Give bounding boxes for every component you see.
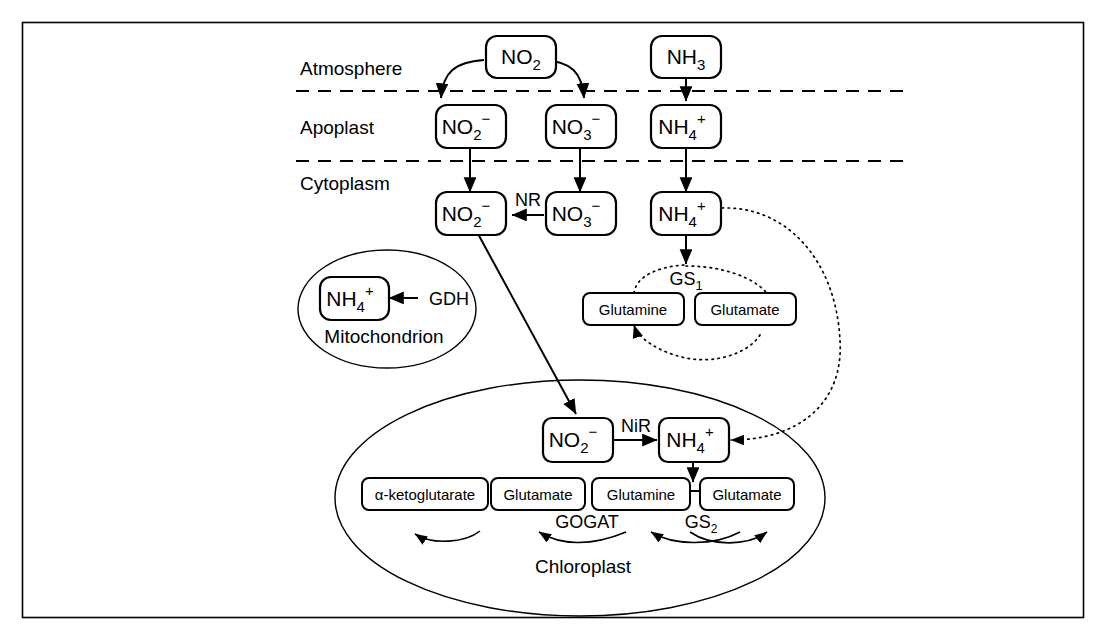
- arrow-no2-to-apoplast-nitrite: [441, 60, 484, 98]
- node-cytoplasmic-glutamine-label: Glutamine: [599, 301, 667, 318]
- enzyme-label-gogat: GOGAT: [555, 512, 619, 532]
- enzyme-label-gs2: GS2: [685, 512, 718, 536]
- node-chloroplast-glutamate-1-label: Glutamate: [503, 486, 572, 503]
- gs1-cycle-arc-bottom: [634, 325, 760, 360]
- compartment-label-apoplast: Apoplast: [300, 117, 375, 138]
- node-chloroplast-glutamine-label: Glutamine: [607, 486, 675, 503]
- nitrogen-assimilation-diagram: Atmosphere Apoplast Cytoplasm NO2 NH3: [0, 0, 1100, 636]
- arrow-gs2-to-glutamine: [651, 532, 740, 543]
- enzyme-label-gs1: GS1: [669, 269, 702, 293]
- compartment-label-atmosphere: Atmosphere: [300, 58, 402, 79]
- arrow-gogat-to-glutamate: [539, 532, 626, 543]
- enzyme-label-nir: NiR: [621, 416, 651, 436]
- node-cytoplasmic-glutamate-label: Glutamate: [710, 301, 779, 318]
- enzyme-label-gdh: GDH: [429, 289, 469, 309]
- compartment-label-cytoplasm: Cytoplasm: [300, 173, 390, 194]
- enzyme-label-nr: NR: [515, 190, 541, 210]
- node-chloroplast-glutamate-2-label: Glutamate: [712, 486, 781, 503]
- organelle-label-chloroplast: Chloroplast: [535, 556, 632, 577]
- organelle-label-mitochondrion: Mitochondrion: [324, 326, 443, 347]
- node-chloroplast-ketoglutarate-label: α-ketoglutarate: [375, 486, 475, 503]
- arrow-nitrite-to-chloroplast: [477, 232, 576, 414]
- arrow-gogat-to-ketoglutarate: [415, 531, 480, 541]
